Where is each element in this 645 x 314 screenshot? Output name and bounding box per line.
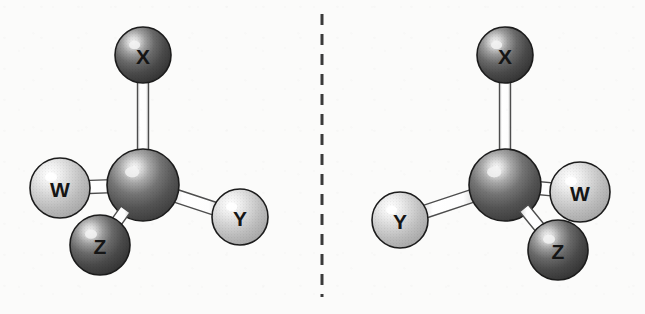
atom-y-label: Y	[233, 207, 247, 230]
molecule-right: WYXZ	[372, 27, 610, 280]
bond-center-x	[138, 76, 149, 155]
atom-x-label: X	[498, 45, 512, 68]
atom-z-label: Z	[94, 235, 107, 258]
atom-y: Y	[212, 189, 268, 245]
atom-y: Y	[372, 192, 428, 248]
atom-w: W	[550, 162, 610, 222]
atom-z-label: Z	[552, 240, 565, 263]
figure-canvas: WYXZWYXZ	[0, 0, 645, 314]
atom-y-label: Y	[393, 210, 407, 233]
bond-center-x	[500, 76, 511, 155]
atom-w-label: W	[50, 178, 70, 201]
atom-z: Z	[70, 215, 130, 275]
molecule-pair-diagram: WYXZWYXZ	[0, 0, 645, 314]
atom-x: X	[477, 27, 533, 83]
atom-x: X	[115, 27, 171, 83]
atom-w-label: W	[570, 182, 590, 205]
atom-w: W	[30, 158, 90, 218]
molecule-left: WYXZ	[30, 27, 268, 275]
atom-z: Z	[528, 220, 588, 280]
atom-x-label: X	[136, 45, 150, 68]
